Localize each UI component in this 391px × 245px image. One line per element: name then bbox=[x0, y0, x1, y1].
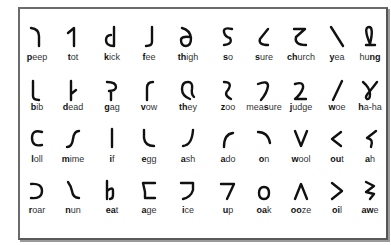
r-hook-icon bbox=[129, 78, 169, 104]
word-part: gg bbox=[147, 154, 157, 164]
s-stroke-icon bbox=[53, 126, 93, 152]
bar-icon bbox=[92, 126, 132, 152]
word-part: f bbox=[112, 154, 115, 164]
caret-icon bbox=[281, 178, 321, 204]
highlighted-sound: ng bbox=[370, 52, 381, 62]
word-part: e bbox=[374, 205, 379, 215]
word-part: mea bbox=[246, 102, 264, 112]
word-part: h bbox=[370, 154, 375, 164]
j-hook-icon bbox=[129, 24, 169, 50]
zeta-icon bbox=[281, 24, 321, 50]
p-hook-icon bbox=[92, 78, 132, 104]
highlighted-sound: oi bbox=[332, 205, 340, 215]
seven-curve-icon bbox=[244, 78, 284, 104]
highlighted-sound: ch bbox=[287, 52, 298, 62]
reverse-flag-icon bbox=[168, 178, 208, 204]
word-part: n bbox=[264, 154, 269, 164]
word-part: ee bbox=[145, 52, 155, 62]
word-part: un bbox=[71, 205, 81, 215]
highlighted-sound: ea bbox=[106, 205, 116, 215]
word-part: ce bbox=[185, 205, 195, 215]
word-part: oll bbox=[34, 154, 43, 164]
zigzag-icon bbox=[350, 178, 390, 204]
word-part: ge bbox=[147, 205, 157, 215]
word-part: hu bbox=[359, 52, 369, 62]
highlighted-sound: m bbox=[62, 154, 70, 164]
highlighted-sound: oo bbox=[291, 205, 302, 215]
two-icon bbox=[281, 78, 321, 104]
highlighted-sound: oa bbox=[256, 205, 267, 215]
delta-icon bbox=[168, 24, 208, 50]
j-cup-icon bbox=[168, 126, 208, 152]
tall-one-icon bbox=[53, 24, 93, 50]
open-l-icon bbox=[244, 24, 284, 50]
highlighted-sound: w bbox=[328, 102, 335, 112]
c-flag-icon bbox=[129, 178, 169, 204]
stem-flag-icon bbox=[53, 78, 93, 104]
highlighted-sound: th bbox=[178, 52, 187, 62]
loop-l-icon bbox=[350, 24, 390, 50]
highlighted-sound: w bbox=[291, 154, 298, 164]
q-loop-icon bbox=[168, 78, 208, 104]
word-part: sh bbox=[186, 154, 196, 164]
highlighted-sound: aw bbox=[361, 205, 373, 215]
word-part: p bbox=[228, 205, 233, 215]
example-word: awe bbox=[340, 205, 391, 215]
v-icon bbox=[281, 126, 321, 152]
word-part: ow bbox=[146, 102, 158, 112]
h-hook-icon bbox=[92, 178, 132, 204]
c-icon bbox=[17, 126, 57, 152]
example-word: hung bbox=[340, 52, 391, 62]
l-curve-icon bbox=[17, 78, 57, 104]
l-cup-icon bbox=[129, 126, 169, 152]
word-part: ead bbox=[68, 102, 83, 112]
word-part: igh bbox=[186, 52, 198, 62]
arc-up-icon bbox=[208, 126, 248, 152]
s-curve-icon bbox=[208, 24, 248, 50]
reverse-c-icon bbox=[17, 178, 57, 204]
seven-icon bbox=[208, 178, 248, 204]
word-part: t bbox=[116, 205, 119, 215]
o-icon bbox=[244, 178, 284, 204]
word-part: ey bbox=[187, 102, 197, 112]
word-part: a-ha bbox=[364, 102, 382, 112]
example-word: ha-ha bbox=[340, 102, 391, 112]
word-part: ot bbox=[71, 52, 79, 62]
arc-right-icon bbox=[244, 126, 284, 152]
gamma-loop-icon bbox=[350, 78, 390, 104]
curl-d-icon bbox=[92, 24, 132, 50]
example-word: ah bbox=[340, 154, 391, 164]
wave-icon bbox=[53, 178, 93, 204]
hook-s-icon bbox=[350, 126, 390, 152]
deep-hook-icon bbox=[17, 24, 57, 50]
word-part: o bbox=[228, 52, 233, 62]
reverse-s-icon bbox=[208, 78, 248, 104]
